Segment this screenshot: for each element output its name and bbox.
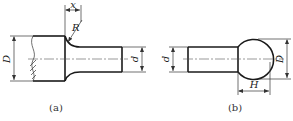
figure-b: d D H (b) bbox=[160, 39, 291, 113]
caption-a: (a) bbox=[49, 102, 63, 113]
caption-b: (b) bbox=[228, 102, 242, 113]
dimension-D-a: D bbox=[1, 36, 33, 81]
ball-end bbox=[238, 40, 274, 80]
figure-a: D d x R (a) bbox=[1, 0, 146, 113]
shaft bbox=[188, 47, 238, 72]
svg-text:x: x bbox=[70, 0, 76, 10]
dimension-d-b: d bbox=[160, 47, 188, 72]
svg-text:H: H bbox=[249, 79, 259, 90]
svg-text:D: D bbox=[274, 55, 285, 64]
svg-text:D: D bbox=[1, 55, 12, 64]
svg-text:d: d bbox=[129, 56, 140, 62]
small-shaft bbox=[65, 36, 122, 81]
dimension-R: R bbox=[68, 20, 82, 42]
svg-text:R: R bbox=[71, 22, 80, 33]
technical-drawing: D d x R (a) bbox=[0, 0, 293, 121]
large-cylinder bbox=[30, 36, 65, 81]
dimension-D-b: D bbox=[258, 39, 291, 79]
dimension-H: H bbox=[238, 62, 270, 95]
dimension-d-a: d bbox=[122, 47, 146, 72]
svg-text:d: d bbox=[160, 56, 171, 62]
break-hatch bbox=[30, 60, 36, 79]
